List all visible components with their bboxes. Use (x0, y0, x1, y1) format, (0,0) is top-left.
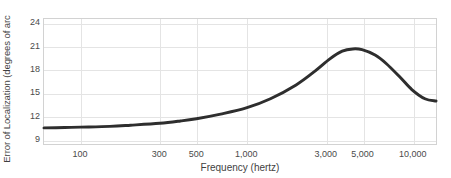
x-tick-label: 1,000 (235, 149, 258, 159)
data-series-line (44, 19, 436, 144)
x-tick-label: 300 (152, 149, 167, 159)
plot-area (43, 18, 437, 145)
x-tick-label: 500 (189, 149, 204, 159)
x-tick-label: 100 (72, 149, 87, 159)
x-tick-label: 3,000 (314, 149, 337, 159)
chart-figure: Error of Localization (degrees of arc 91… (0, 0, 451, 178)
y-tick-label: 12 (18, 112, 40, 121)
y-axis-title: Error of Localization (degrees of arc (0, 0, 14, 178)
x-tick-label: 5,000 (351, 149, 374, 159)
y-tick-label: 15 (18, 88, 40, 97)
y-tick-label: 9 (18, 135, 40, 144)
x-tick-label: 10,000 (399, 149, 427, 159)
y-axis-tick-labels: 91215182124 (16, 0, 40, 178)
series-path (44, 49, 436, 128)
y-tick-label: 18 (18, 65, 40, 74)
y-tick-label: 24 (18, 18, 40, 27)
x-axis-title: Frequency (hertz) (43, 162, 437, 174)
y-tick-label: 21 (18, 42, 40, 51)
